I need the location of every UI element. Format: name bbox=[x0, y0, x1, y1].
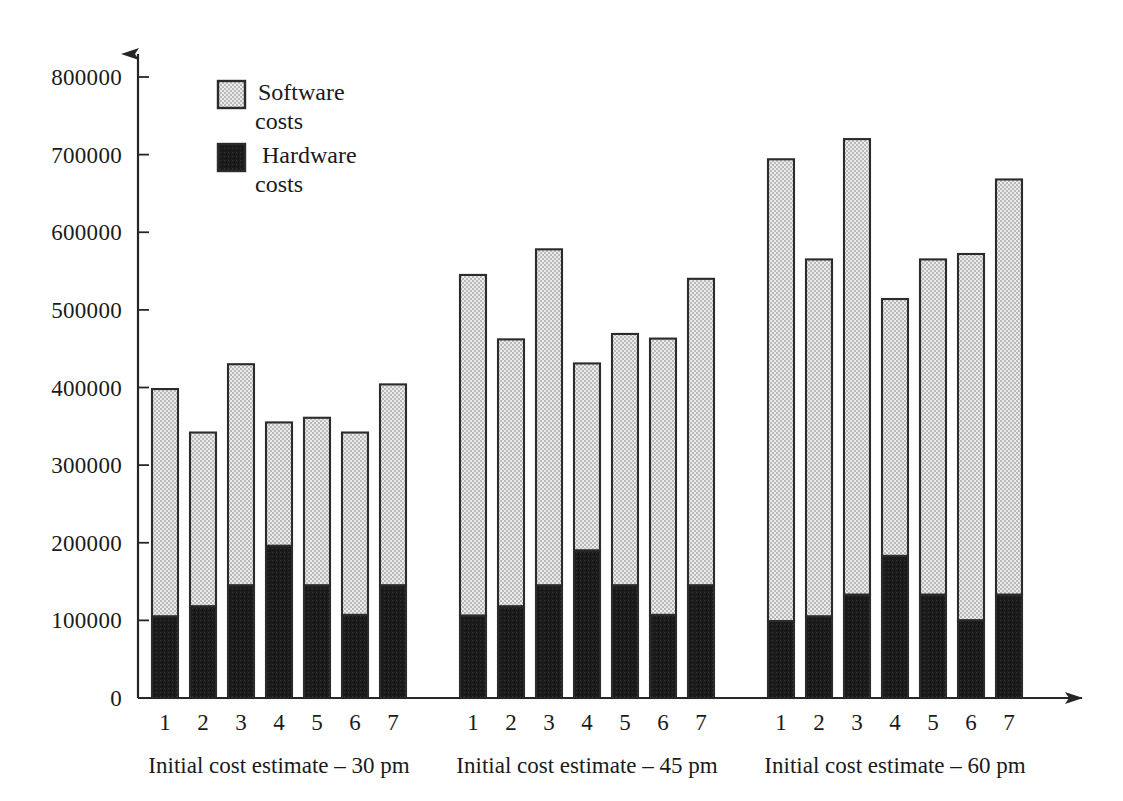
bar-segment-hardware bbox=[844, 595, 870, 698]
x-axis-tick-label: 1 bbox=[159, 710, 171, 735]
bar-segment-software bbox=[380, 384, 406, 585]
group-axis-label: Initial cost estimate – 60 pm bbox=[764, 753, 1025, 778]
x-axis-tick-label: 4 bbox=[273, 710, 285, 735]
bar-segment-software bbox=[882, 299, 908, 556]
bar-segment-software bbox=[574, 363, 600, 550]
legend-swatch-software-icon bbox=[218, 81, 245, 108]
bar-segment-hardware bbox=[650, 615, 676, 698]
x-axis-tick-label: 7 bbox=[695, 710, 707, 735]
bar-segment-software bbox=[460, 275, 486, 616]
x-axis-tick-label: 2 bbox=[505, 710, 517, 735]
x-axis-tick-label: 4 bbox=[581, 710, 593, 735]
x-axis-tick-labels: 123456712345671234567 bbox=[159, 710, 1015, 735]
x-axis-tick-label: 2 bbox=[197, 710, 209, 735]
group-labels: Initial cost estimate – 30 pmInitial cos… bbox=[148, 753, 1025, 778]
bar-segment-hardware bbox=[380, 585, 406, 698]
bar-segment-software bbox=[806, 259, 832, 616]
legend-label-software-line2: costs bbox=[255, 108, 303, 134]
bar-segment-hardware bbox=[920, 595, 946, 698]
x-axis-tick-label: 7 bbox=[387, 710, 399, 735]
bar-segment-hardware bbox=[768, 621, 794, 698]
x-axis-tick-label: 4 bbox=[889, 710, 901, 735]
bar-segment-hardware bbox=[190, 606, 216, 698]
bars-layer bbox=[152, 139, 1022, 698]
group-axis-label: Initial cost estimate – 45 pm bbox=[456, 753, 717, 778]
y-axis-tick-label: 400000 bbox=[51, 376, 122, 401]
legend-label-hardware-line1: Hardware bbox=[262, 142, 357, 168]
bar-segment-software bbox=[768, 159, 794, 621]
legend-label-hardware-line2: costs bbox=[255, 171, 303, 197]
bar-segment-hardware bbox=[536, 585, 562, 698]
stacked-bar-chart-canvas: 8000007000006000005000004000003000002000… bbox=[0, 0, 1123, 801]
bar-segment-hardware bbox=[228, 585, 254, 698]
y-axis-tick-label: 800000 bbox=[51, 65, 122, 90]
bar-segment-software bbox=[844, 139, 870, 595]
bar-segment-hardware bbox=[498, 606, 524, 698]
group-axis-label: Initial cost estimate – 30 pm bbox=[148, 753, 409, 778]
x-axis-tick-label: 3 bbox=[851, 710, 863, 735]
legend-label-software-line1: Software bbox=[258, 79, 345, 105]
bar-segment-software bbox=[688, 279, 714, 586]
x-axis-tick-label: 7 bbox=[1003, 710, 1015, 735]
y-axis-tick-label: 700000 bbox=[51, 143, 122, 168]
bar-segment-hardware bbox=[152, 616, 178, 698]
y-axis-ticks bbox=[138, 77, 149, 620]
bar-chart-figure: 8000007000006000005000004000003000002000… bbox=[0, 0, 1123, 801]
bar-segment-hardware bbox=[266, 546, 292, 698]
bar-segment-hardware bbox=[996, 595, 1022, 698]
y-axis-tick-labels: 8000007000006000005000004000003000002000… bbox=[51, 65, 122, 711]
bar-segment-software bbox=[958, 254, 984, 620]
bar-segment-hardware bbox=[612, 585, 638, 698]
y-axis-tick-label: 300000 bbox=[51, 453, 122, 478]
bar-segment-hardware bbox=[304, 585, 330, 698]
x-axis-tick-label: 6 bbox=[965, 710, 977, 735]
x-axis-tick-label: 3 bbox=[235, 710, 247, 735]
bar-segment-hardware bbox=[806, 616, 832, 698]
bar-segment-hardware bbox=[574, 551, 600, 698]
y-axis-tick-label: 600000 bbox=[51, 220, 122, 245]
y-axis-tick-label: 100000 bbox=[51, 608, 122, 633]
bar-segment-software bbox=[304, 418, 330, 586]
bar-segment-software bbox=[996, 179, 1022, 594]
bar-segment-software bbox=[920, 259, 946, 594]
bar-segment-software bbox=[266, 422, 292, 545]
y-axis-tick-label: 500000 bbox=[51, 298, 122, 323]
x-axis-tick-label: 3 bbox=[543, 710, 555, 735]
x-axis-tick-label: 2 bbox=[813, 710, 825, 735]
bar-segment-software bbox=[612, 334, 638, 586]
bar-segment-software bbox=[190, 433, 216, 607]
x-axis-tick-label: 5 bbox=[927, 710, 939, 735]
chart-legend: Software costs Hardware costs bbox=[218, 79, 357, 197]
x-axis-tick-label: 1 bbox=[467, 710, 479, 735]
bar-segment-hardware bbox=[688, 585, 714, 698]
y-axis-tick-label: 0 bbox=[110, 686, 122, 711]
bar-segment-software bbox=[650, 339, 676, 615]
x-axis-tick-label: 5 bbox=[619, 710, 631, 735]
bar-segment-hardware bbox=[460, 616, 486, 698]
x-axis-tick-label: 6 bbox=[657, 710, 669, 735]
y-axis-tick-label: 200000 bbox=[51, 531, 122, 556]
bar-segment-software bbox=[228, 364, 254, 585]
x-axis-tick-label: 5 bbox=[311, 710, 323, 735]
bar-segment-software bbox=[536, 249, 562, 585]
bar-segment-software bbox=[342, 433, 368, 615]
x-axis-tick-label: 6 bbox=[349, 710, 361, 735]
bar-segment-software bbox=[498, 339, 524, 606]
bar-segment-hardware bbox=[958, 620, 984, 698]
legend-swatch-hardware-icon bbox=[218, 144, 245, 171]
bar-segment-hardware bbox=[342, 615, 368, 698]
bar-segment-hardware bbox=[882, 556, 908, 698]
bar-segment-software bbox=[152, 389, 178, 616]
x-axis-tick-label: 1 bbox=[775, 710, 787, 735]
